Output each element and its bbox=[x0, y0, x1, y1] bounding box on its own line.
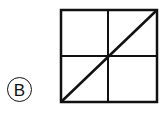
diagram-canvas: B bbox=[0, 0, 168, 116]
square-figure bbox=[0, 0, 168, 116]
